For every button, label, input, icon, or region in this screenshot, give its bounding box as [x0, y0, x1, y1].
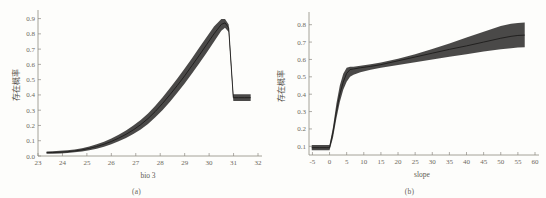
y-tick-label: 0.8 [297, 21, 306, 29]
x-tick-label: 26 [108, 159, 116, 167]
y-tick-label: 0.9 [26, 15, 35, 23]
confidence-band [47, 19, 251, 154]
x-tick-label: 10 [360, 158, 368, 166]
y-axis-title: 存在概率 [276, 70, 286, 102]
mean-response-line [47, 23, 251, 153]
x-tick-label: 45 [480, 158, 488, 166]
x-tick-label: 30 [206, 159, 214, 167]
x-tick-label: 32 [255, 159, 263, 167]
x-tick-label: 15 [377, 158, 385, 166]
y-tick-label: 0.0 [26, 153, 35, 161]
x-tick-label: 55 [514, 158, 522, 166]
figure-container: 232425262728293031320.00.10.20.30.40.50.… [0, 0, 546, 198]
x-axis-title: bio 3 [140, 171, 155, 180]
y-tick-label: 0.3 [26, 107, 35, 115]
x-tick-label: 23 [35, 159, 43, 167]
x-tick-label: 20 [395, 158, 403, 166]
y-tick-label: 0.4 [26, 91, 35, 99]
panel-b-caption: (b) [273, 187, 546, 196]
y-tick-label: 0.7 [26, 46, 35, 54]
x-tick-label: 25 [83, 159, 91, 167]
y-tick-label: 0.4 [297, 91, 306, 99]
x-tick-label: -5 [310, 158, 316, 166]
y-tick-label: 0.5 [26, 76, 35, 84]
y-tick-label: 0.6 [26, 61, 35, 69]
y-tick-label: 0.2 [297, 125, 306, 133]
x-tick-label: 60 [532, 158, 540, 166]
x-tick-label: 40 [463, 158, 471, 166]
confidence-band [312, 23, 525, 151]
x-axis-title: slope [414, 170, 431, 179]
x-tick-label: 28 [157, 159, 165, 167]
x-tick-label: 0 [328, 158, 332, 166]
x-tick-label: 25 [412, 158, 420, 166]
chart-a-canvas: 232425262728293031320.00.10.20.30.40.50.… [0, 0, 273, 198]
y-tick-label: 0.1 [26, 137, 35, 145]
x-tick-label: 35 [446, 158, 454, 166]
x-tick-label: 27 [132, 159, 140, 167]
panel-a-caption: (a) [0, 187, 273, 196]
x-tick-label: 30 [429, 158, 437, 166]
y-tick-label: 0.6 [297, 56, 306, 64]
x-tick-label: 31 [230, 159, 238, 167]
mean-response-line [312, 35, 525, 148]
y-axis-title: 存在概率 [11, 69, 21, 101]
x-tick-label: 29 [181, 159, 189, 167]
y-tick-label: 0.3 [297, 108, 306, 116]
x-tick-label: 24 [59, 159, 67, 167]
y-tick-label: 0.7 [297, 39, 306, 47]
panel-b: -50510152025303540455055600.10.20.30.40.… [273, 0, 546, 198]
y-tick-label: 0.8 [26, 30, 35, 38]
x-tick-label: 50 [497, 158, 505, 166]
panel-a: 232425262728293031320.00.10.20.30.40.50.… [0, 0, 273, 198]
chart-b-canvas: -50510152025303540455055600.10.20.30.40.… [273, 0, 546, 198]
y-tick-label: 0.2 [26, 122, 35, 130]
y-tick-label: 0.1 [297, 143, 306, 151]
x-tick-label: 5 [345, 158, 349, 166]
y-tick-label: 0.5 [297, 73, 306, 81]
